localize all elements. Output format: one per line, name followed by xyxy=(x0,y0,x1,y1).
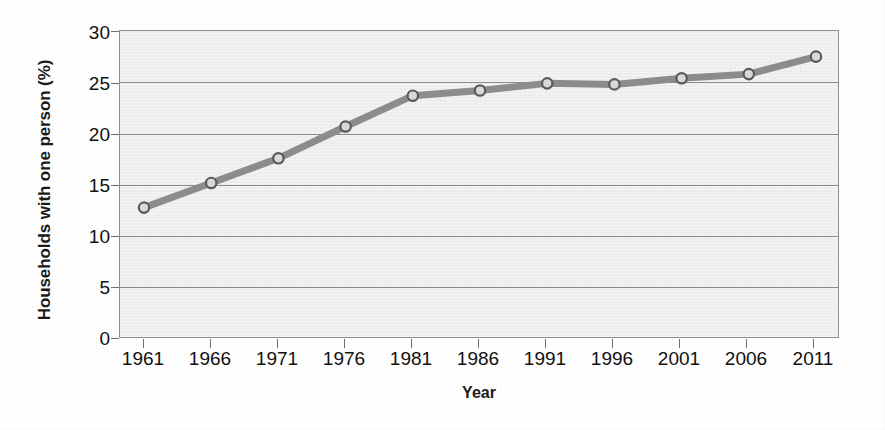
data-point-1991 xyxy=(542,78,552,88)
x-tick-mark-1961 xyxy=(143,339,144,348)
x-tick-mark-1971 xyxy=(277,339,278,348)
data-point-2006 xyxy=(744,69,754,79)
y-tick-label-15: 15 xyxy=(70,176,110,195)
y-tick-label-25: 25 xyxy=(70,74,110,93)
y-axis-title: Households with one person (%) xyxy=(35,25,55,355)
y-tick-mark-5 xyxy=(111,287,119,288)
data-point-2001 xyxy=(676,73,686,83)
y-axis-tick-labels: 0 5 10 15 20 25 30 xyxy=(62,0,110,430)
x-tick-mark-1981 xyxy=(411,339,412,348)
data-point-1966 xyxy=(206,178,216,188)
y-tick-label-20: 20 xyxy=(70,125,110,144)
y-tick-label-30: 30 xyxy=(70,23,110,42)
data-point-1986 xyxy=(475,85,485,95)
data-point-1976 xyxy=(340,121,350,131)
x-tick-label-1971: 1971 xyxy=(242,349,312,369)
series-line xyxy=(144,57,816,208)
x-tick-label-2006: 2006 xyxy=(711,349,781,369)
data-series-group xyxy=(120,31,839,338)
y-tick-mark-20 xyxy=(111,134,119,135)
x-tick-mark-2006 xyxy=(746,339,747,348)
x-axis-title: Year xyxy=(119,384,839,402)
y-tick-label-0: 0 xyxy=(70,329,110,348)
data-point-1996 xyxy=(609,79,619,89)
chart-figure: Households with one person (%) 0 5 10 15… xyxy=(0,0,885,430)
plot-area xyxy=(119,30,839,338)
x-tick-mark-1986 xyxy=(478,339,479,348)
x-tick-label-2001: 2001 xyxy=(644,349,714,369)
x-tick-label-2011: 2011 xyxy=(778,349,848,369)
x-tick-label-1991: 1991 xyxy=(510,349,580,369)
y-tick-mark-0 xyxy=(111,338,119,339)
x-tick-label-1961: 1961 xyxy=(108,349,178,369)
data-point-1981 xyxy=(408,90,418,100)
x-tick-mark-2001 xyxy=(679,339,680,348)
y-tick-label-5: 5 xyxy=(70,278,110,297)
data-point-1961 xyxy=(139,202,149,212)
x-tick-label-1976: 1976 xyxy=(309,349,379,369)
x-tick-label-1986: 1986 xyxy=(443,349,513,369)
x-tick-mark-1991 xyxy=(545,339,546,348)
x-tick-mark-2011 xyxy=(813,339,814,348)
y-tick-mark-15 xyxy=(111,185,119,186)
y-tick-mark-30 xyxy=(111,31,119,32)
data-point-2011 xyxy=(811,51,821,61)
y-tick-label-10: 10 xyxy=(70,227,110,246)
y-tick-mark-25 xyxy=(111,83,119,84)
x-tick-label-1966: 1966 xyxy=(175,349,245,369)
data-point-1971 xyxy=(273,153,283,163)
x-tick-mark-1966 xyxy=(210,339,211,348)
x-tick-label-1981: 1981 xyxy=(376,349,446,369)
x-tick-mark-1996 xyxy=(612,339,613,348)
y-tick-mark-10 xyxy=(111,236,119,237)
x-tick-mark-1976 xyxy=(344,339,345,348)
x-tick-label-1996: 1996 xyxy=(577,349,647,369)
